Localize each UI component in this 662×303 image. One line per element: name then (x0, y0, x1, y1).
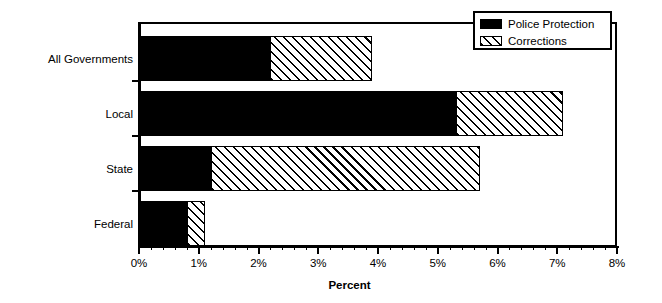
x-axis-tick-label: 2% (239, 257, 279, 269)
x-axis-tick-minor (282, 246, 283, 250)
x-axis-tick-minor (270, 246, 271, 250)
category-label: State (0, 163, 133, 175)
bar-segment-police-protection (139, 36, 270, 81)
x-axis-tick-minor (426, 246, 427, 250)
category-label: All Governments (0, 53, 133, 65)
x-axis-tick-label: 4% (358, 257, 398, 269)
x-axis-tick-minor (593, 246, 594, 250)
x-axis-tick-major (138, 246, 140, 254)
bar-segment-police-protection (139, 146, 211, 191)
x-axis-title-text: Percent (328, 279, 370, 291)
x-axis-tick-minor (342, 246, 343, 250)
x-axis-tick-label: 8% (597, 257, 637, 269)
x-axis-tick-label: 7% (537, 257, 577, 269)
x-axis-tick-major (258, 246, 260, 254)
x-axis-tick-minor (450, 246, 451, 250)
x-axis-tick-minor (533, 246, 534, 250)
legend-label-corrections: Corrections (508, 35, 567, 47)
bar-segment-police-protection (139, 91, 456, 136)
bar-segment-corrections (187, 201, 205, 246)
y-axis-tick (132, 190, 140, 192)
legend-item-corrections: Corrections (480, 33, 606, 49)
x-axis-tick-minor (521, 246, 522, 250)
bar-segment-corrections (270, 36, 372, 81)
x-axis-tick-major (497, 246, 499, 254)
chart-legend: Police Protection Corrections (473, 11, 612, 50)
x-axis-tick-label: 0% (119, 257, 159, 269)
x-axis-tick-minor (354, 246, 355, 250)
x-axis-tick-minor (294, 246, 295, 250)
x-axis-tick-major (556, 246, 558, 254)
category-label: Local (0, 108, 133, 120)
x-axis-tick-minor (545, 246, 546, 250)
x-axis-tick-minor (474, 246, 475, 250)
legend-item-police-protection: Police Protection (480, 16, 606, 32)
chart-container: 0%1%2%3%4%5%6%7%8% All GovernmentsLocalS… (0, 0, 662, 303)
legend-label-police-protection: Police Protection (508, 18, 594, 30)
x-axis-tick-minor (486, 246, 487, 250)
x-axis-tick-minor (581, 246, 582, 250)
x-axis-tick-minor (605, 246, 606, 250)
x-axis-tick-minor (306, 246, 307, 250)
x-axis-tick-minor (390, 246, 391, 250)
y-axis-tick (132, 135, 140, 137)
y-axis-tick (132, 80, 140, 82)
legend-swatch-corrections-icon (480, 36, 502, 46)
x-axis-tick-label: 6% (478, 257, 518, 269)
bar-segment-corrections (211, 146, 480, 191)
x-axis-tick-major (377, 246, 379, 254)
x-axis-tick-minor (509, 246, 510, 250)
bar-segment-corrections (456, 91, 564, 136)
bar-segment-police-protection (139, 201, 187, 246)
x-axis-tick-minor (414, 246, 415, 250)
x-axis-tick-minor (366, 246, 367, 250)
x-axis-tick-minor (211, 246, 212, 250)
x-axis-tick-minor (235, 246, 236, 250)
x-axis-title: Percent (0, 279, 662, 291)
x-axis-tick-major (616, 246, 618, 254)
x-axis-tick-minor (569, 246, 570, 250)
x-axis-tick-minor (175, 246, 176, 250)
x-axis-tick-minor (247, 246, 248, 250)
x-axis-tick-minor (330, 246, 331, 250)
x-axis-tick-major (317, 246, 319, 254)
x-axis-tick-minor (402, 246, 403, 250)
x-axis-tick-label: 3% (298, 257, 338, 269)
x-axis-tick-minor (187, 246, 188, 250)
x-axis-tick-minor (151, 246, 152, 250)
x-axis-tick-major (198, 246, 200, 254)
x-axis-tick-minor (163, 246, 164, 250)
legend-swatch-police-protection-icon (480, 19, 502, 29)
x-axis-tick-label: 1% (179, 257, 219, 269)
x-axis-tick-label: 5% (418, 257, 458, 269)
x-axis-tick-minor (462, 246, 463, 250)
x-axis-tick-minor (223, 246, 224, 250)
category-label: Federal (0, 218, 133, 230)
x-axis-tick-major (437, 246, 439, 254)
